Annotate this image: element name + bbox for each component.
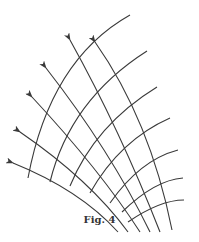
concentric-arc [90,118,170,193]
concentric-arc [28,15,130,178]
flow-line-arrow-icon [32,97,140,232]
flow-lines-with-arrows [13,40,172,232]
flow-line-arrow-icon [70,40,160,232]
figure-4: Fig. 4 [0,0,199,242]
curvilinear-grid-diagram [0,0,199,242]
concentric-arc [70,87,157,186]
figure-caption: Fig. 4 [0,214,199,225]
concentric-arc [50,51,147,182]
